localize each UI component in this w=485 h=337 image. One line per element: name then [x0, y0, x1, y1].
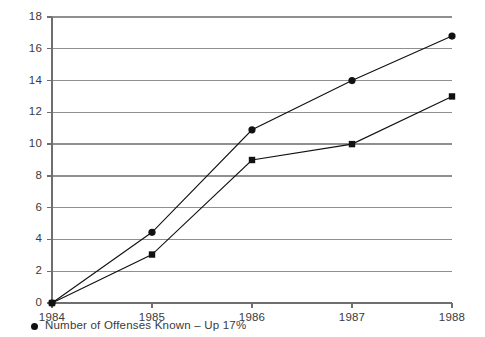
y-tick-label: 8	[16, 170, 42, 182]
x-tick-label: 1988	[429, 312, 475, 324]
line-chart: 024681012141618 19841985198619871988 Num…	[0, 0, 485, 337]
data-point-marker	[248, 126, 255, 133]
series-layer	[48, 32, 455, 306]
gridlines	[52, 17, 452, 271]
y-tick-label: 12	[16, 106, 42, 118]
data-point-marker	[349, 141, 355, 147]
y-tick-label: 18	[16, 11, 42, 23]
y-tick-label: 2	[16, 265, 42, 277]
y-tick-label: 4	[16, 233, 42, 245]
y-tick-label: 10	[16, 138, 42, 150]
data-point-marker	[49, 300, 55, 306]
x-tick-label: 1987	[329, 312, 375, 324]
plot-area	[0, 0, 485, 337]
y-tick-label: 0	[16, 297, 42, 309]
data-point-marker	[249, 157, 255, 163]
y-tick-label: 14	[16, 75, 42, 87]
y-tick-label: 6	[16, 202, 42, 214]
data-point-marker	[448, 32, 455, 39]
data-point-marker	[348, 77, 355, 84]
y-tick-label: 16	[16, 43, 42, 55]
legend-entry-label: Number of Offenses Known – Up 17%	[45, 320, 246, 332]
data-point-marker	[449, 93, 455, 99]
series-line-0	[52, 36, 452, 303]
data-point-marker	[149, 251, 155, 257]
chart-legend: Number of Offenses Known – Up 17%	[31, 318, 246, 334]
data-point-marker	[148, 229, 155, 236]
circle-marker-icon	[31, 323, 38, 330]
